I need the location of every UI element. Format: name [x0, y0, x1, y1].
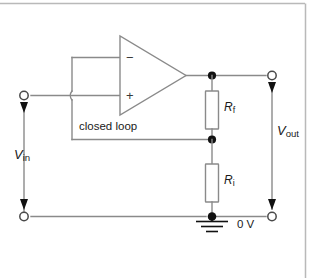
zero-volts-label: 0 V — [237, 219, 254, 231]
rf-label: Rf — [224, 101, 235, 113]
rf-body — [206, 91, 219, 129]
rf-symbol: R — [224, 100, 233, 114]
ground-net — [196, 212, 266, 231]
vout-top-arrow-icon — [268, 82, 276, 93]
vout-symbol: V — [277, 123, 286, 138]
opamp-triangle-body — [120, 36, 186, 115]
vout-top-terminal[interactable] — [268, 71, 276, 79]
ri-symbol: R — [224, 173, 233, 187]
ri-label: Ri — [224, 174, 235, 186]
circuit-diagram-figure: − + closed loop Vin Vout Rf Ri 0 V — [0, 0, 319, 278]
figure-border — [0, 4, 306, 278]
ri-body — [206, 164, 219, 202]
vin-branch — [20, 91, 206, 220]
vin-subscript: in — [23, 152, 30, 163]
vout-branch — [268, 71, 276, 220]
operational-amplifier[interactable] — [120, 36, 186, 115]
vout-subscript: out — [286, 128, 299, 139]
earth-ground-icon — [196, 217, 228, 232]
opamp-inverting-input-label: − — [126, 51, 134, 64]
vin-label: Vin — [14, 148, 30, 161]
feedback-resistor-rf[interactable] — [206, 76, 219, 141]
input-resistor-ri[interactable] — [206, 140, 219, 218]
ri-subscript: i — [233, 178, 235, 188]
rf-subscript: f — [233, 105, 235, 115]
vin-bottom-arrow-icon — [20, 199, 28, 210]
vin-top-arrow-icon — [20, 102, 28, 113]
output-net — [186, 71, 266, 79]
opamp-noninverting-input-label: + — [126, 89, 134, 102]
vin-symbol: V — [14, 147, 23, 162]
vout-bottom-arrow-icon — [268, 199, 276, 210]
vin-bottom-terminal[interactable] — [20, 212, 28, 220]
vout-label: Vout — [277, 124, 299, 137]
vout-bottom-terminal[interactable] — [268, 212, 276, 220]
closed-loop-label: closed loop — [79, 121, 137, 133]
circuit-schematic-canvas — [0, 0, 319, 278]
vin-top-terminal[interactable] — [20, 91, 28, 99]
